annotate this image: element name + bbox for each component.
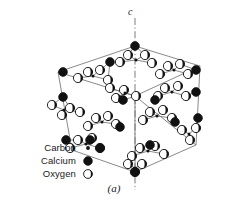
figure-caption: (a)	[0, 182, 228, 194]
calcium-circle-icon	[80, 154, 96, 167]
oxygen-atom	[91, 113, 100, 122]
calcium-atom	[194, 114, 203, 123]
carbon-atom	[135, 59, 138, 62]
oxygen-atom	[173, 81, 182, 90]
oxygen-atom	[131, 91, 140, 100]
oxygen-atom	[183, 69, 192, 78]
calcium-atom	[59, 93, 68, 102]
calcium-atom	[116, 123, 125, 132]
oxygen-atom	[138, 115, 147, 124]
oxygen-atom	[145, 107, 154, 116]
oxygen-atom	[185, 135, 194, 144]
calcium-atom	[96, 144, 105, 153]
legend: Carbon Calcium Oxygen	[12, 141, 96, 180]
oxygen-atom	[140, 50, 149, 59]
oxygen-atom	[57, 110, 66, 119]
calcium-atom	[192, 66, 201, 75]
calcium-atom	[146, 141, 155, 150]
oxygen-atom	[181, 91, 190, 100]
carbon-atom	[124, 92, 127, 95]
carbon-atom	[134, 167, 137, 170]
oxygen-atom	[95, 65, 104, 74]
oxygen-atom	[155, 69, 164, 78]
legend-item-carbon: Carbon	[12, 141, 96, 154]
calcium-atom	[59, 68, 68, 77]
oxygen-atom	[115, 57, 124, 66]
calcium-atom	[131, 42, 140, 51]
carbon-atom	[63, 109, 66, 112]
oxygen-atom	[83, 67, 92, 76]
calcium-atom	[119, 96, 128, 105]
legend-label-carbon: Carbon	[44, 142, 76, 153]
oxygen-atom	[65, 103, 74, 112]
oxygen-atom	[135, 143, 144, 152]
carbon-atom	[147, 150, 150, 153]
oxygen-atom	[75, 107, 84, 116]
oxygen-atom	[103, 111, 112, 120]
calcium-atom	[151, 96, 160, 105]
carbon-atom	[92, 75, 95, 78]
oxygen-atom	[177, 125, 186, 134]
oxygen-atom	[163, 61, 172, 70]
crystal-structure-figure: c Carbon Calcium Oxygen	[0, 0, 228, 208]
legend-item-oxygen: Oxygen	[12, 167, 96, 180]
oxygen-atom	[147, 58, 156, 67]
oxygen-atom	[105, 83, 114, 92]
carbon-atom	[171, 91, 174, 94]
oxygen-atom	[123, 50, 132, 59]
oxygen-atom	[123, 159, 132, 168]
oxygen-atom	[191, 123, 200, 132]
oxygen-atom	[47, 100, 56, 109]
legend-label-calcium: Calcium	[41, 155, 76, 166]
oxygen-atom	[159, 149, 168, 158]
legend-label-oxygen: Oxygen	[43, 168, 76, 179]
calcium-atom	[171, 118, 180, 127]
oxygen-atom	[160, 83, 169, 92]
oxygen-atom	[137, 159, 146, 168]
calcium-atom	[106, 58, 115, 67]
carbon-atom	[188, 133, 191, 136]
oxygen-atom	[175, 59, 184, 68]
carbon-atom	[173, 69, 176, 72]
oxygen-half-circle-icon	[80, 167, 96, 180]
legend-item-calcium: Calcium	[12, 154, 96, 167]
c-axis-label: c	[128, 6, 132, 17]
carbon-dot-icon	[80, 141, 96, 154]
oxygen-atom	[73, 73, 82, 82]
oxygen-atom	[83, 121, 92, 130]
oxygen-atom	[158, 105, 167, 114]
carbon-atom	[156, 115, 159, 118]
carbon-atom	[101, 121, 104, 124]
calcium-atom	[192, 88, 201, 97]
